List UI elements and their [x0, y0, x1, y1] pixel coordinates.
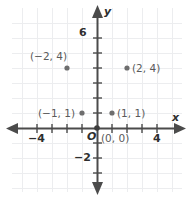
point-label-2-4: (2, 4)	[132, 63, 160, 74]
point-label-neg2-4: (−2, 4)	[30, 51, 67, 62]
origin-label: O	[87, 131, 96, 142]
y-axis-label: y	[104, 6, 111, 17]
y-axis	[92, 5, 103, 195]
point-label-1-1: (1, 1)	[117, 108, 145, 119]
x-axis-label: x	[172, 112, 179, 123]
coordinate-plane-graph: y x O −4 4 6 −2 (−2, 4) (2, 4) (−1, 1) (…	[0, 0, 191, 200]
point-label-neg1-1: (−1, 1)	[38, 108, 75, 119]
data-point-neg1-1	[79, 110, 84, 115]
point-label-0-0: (0, 0)	[101, 133, 129, 144]
y-tick-label-neg-2: −2	[74, 152, 91, 163]
data-point-neg2-4	[64, 65, 69, 70]
data-point-1-1	[109, 110, 114, 115]
y-tick-label-6: 6	[79, 27, 87, 38]
plot-canvas	[0, 0, 191, 200]
x-tick-label-4: 4	[153, 133, 161, 144]
data-point-2-4	[124, 65, 129, 70]
x-tick-label-neg-4: −4	[28, 133, 45, 144]
